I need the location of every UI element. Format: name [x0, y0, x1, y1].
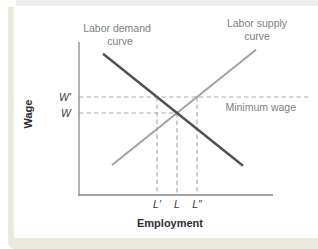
- textbook-figure-card: Labor demand curve Labor supply curve Mi…: [0, 0, 318, 249]
- labor-demand-curve-label-line2: curve: [107, 35, 133, 47]
- labor-market-diagram: Labor demand curve Labor supply curve Mi…: [0, 0, 318, 249]
- labor-demand-curve-label-line1: Labor demand: [83, 22, 151, 34]
- wage-tick-w: W: [61, 107, 72, 119]
- labor-demand-curve-line: [103, 54, 243, 166]
- y-axis-title: Wage: [22, 100, 34, 129]
- wage-tick-w-prime: W′: [59, 91, 72, 103]
- minimum-wage-label: Minimum wage: [225, 101, 296, 113]
- labor-supply-curve-label-line2: curve: [244, 30, 270, 42]
- employment-tick-l: L: [174, 198, 180, 210]
- x-axis-title: Employment: [137, 217, 203, 229]
- labor-supply-curve-label-line1: Labor supply: [227, 17, 288, 29]
- employment-tick-l-double-prime: L″: [192, 198, 203, 210]
- employment-tick-l-prime: L′: [153, 198, 162, 210]
